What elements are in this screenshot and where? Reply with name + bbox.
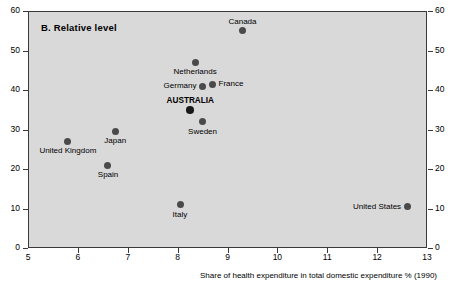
panel-title: B. Relative level [41,22,117,33]
scatter-point-label: United Kingdom [39,147,96,155]
y-axis-tick-left [23,11,28,12]
x-axis-tick-label: 7 [113,253,143,262]
scatter-point-label: Spain [98,171,118,179]
x-axis-tick-label: 5 [13,253,43,262]
x-axis-tick-label: 10 [262,253,292,262]
y-axis-tick-label-right: 10 [435,204,455,213]
scatter-point-label: Italy [173,211,188,219]
y-axis-tick-label-right: 0 [435,243,455,252]
x-axis-tick-label: 8 [163,253,193,262]
scatter-point [192,59,199,66]
scatter-point-label: France [219,80,244,88]
y-axis-tick-label-left: 50 [0,46,20,55]
scatter-point-label: Germany [164,82,197,90]
y-axis-tick-label-left: 60 [0,6,20,15]
y-axis-tick-label-left: 0 [0,243,20,252]
y-axis-tick-right [428,51,433,52]
x-axis-tick-label: 6 [63,253,93,262]
y-axis-tick-left [23,169,28,170]
scatter-point-label: Netherlands [174,68,217,76]
y-axis-tick-right [428,209,433,210]
y-axis-tick-label-left: 20 [0,164,20,173]
scatter-point [404,203,411,210]
y-axis-tick-label-right: 60 [435,6,455,15]
scatter-point-label: United States [353,203,401,211]
y-axis-tick-left [23,90,28,91]
scatter-point [112,128,119,135]
y-axis-tick-label-left: 30 [0,125,20,134]
y-axis-tick-right [428,11,433,12]
x-axis-tick-label: 9 [213,253,243,262]
y-axis-tick-label-right: 50 [435,46,455,55]
x-axis-tick-label: 11 [312,253,342,262]
y-axis-tick-left [23,51,28,52]
scatter-point-label: Japan [104,137,126,145]
scatter-point [104,162,111,169]
y-axis-tick-left [23,248,28,249]
y-axis-tick-right [428,248,433,249]
x-axis-title: Share of health expenditure in total dom… [200,271,437,280]
y-axis-tick-right [428,169,433,170]
x-axis-tick-label: 12 [362,253,392,262]
scatter-point-label: Canada [228,18,256,26]
y-axis-tick-left [23,130,28,131]
scatter-point-label: Sweden [188,128,217,136]
x-axis-tick-label: 13 [412,253,442,262]
plot-area: B. Relative level [28,11,427,248]
y-axis-tick-label-right: 20 [435,164,455,173]
scatter-point [209,81,216,88]
y-axis-tick-right [428,130,433,131]
y-axis-tick-label-right: 40 [435,85,455,94]
scatter-point [186,106,194,114]
y-axis-tick-left [23,209,28,210]
y-axis-tick-right [428,90,433,91]
chart-figure: B. Relative level CanadaNetherlandsFranc… [0,0,456,287]
y-axis-tick-label-left: 40 [0,85,20,94]
y-axis-tick-label-right: 30 [435,125,455,134]
y-axis-tick-label-left: 10 [0,204,20,213]
scatter-point [199,83,206,90]
scatter-point [177,201,184,208]
scatter-point-label: AUSTRALIA [167,97,214,105]
